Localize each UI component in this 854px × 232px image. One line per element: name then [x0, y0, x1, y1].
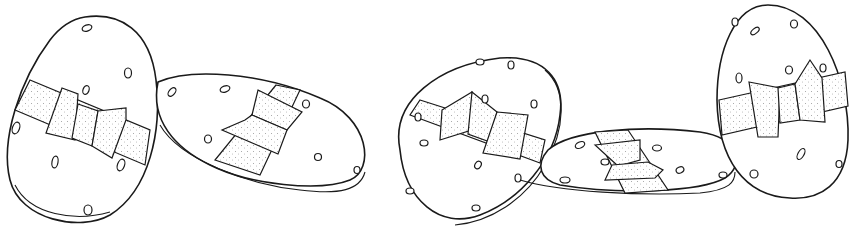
egg-3	[399, 58, 561, 225]
easter-eggs-illustration	[0, 0, 854, 232]
egg-2	[157, 74, 365, 192]
eggs-drawing	[0, 0, 854, 232]
egg-5	[717, 5, 848, 198]
egg-1	[7, 16, 157, 222]
